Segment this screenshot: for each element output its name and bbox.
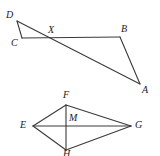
segment-BA — [120, 37, 140, 84]
segment-HE — [33, 126, 66, 150]
segment-EF — [33, 105, 66, 126]
vertex-label-b: B — [121, 24, 127, 34]
vertex-label-c: C — [11, 38, 18, 48]
segment-CB — [22, 37, 120, 38]
vertex-label-h: H — [63, 149, 70, 156]
geometry-figure-page: DCXBAFEMGH — [0, 0, 160, 156]
vertex-label-m: M — [69, 113, 77, 123]
vertex-label-a: A — [142, 85, 148, 95]
segment-GH — [66, 126, 131, 150]
vertex-label-x: X — [48, 25, 54, 35]
kite-efgh-with-center-m — [33, 105, 131, 150]
vertex-label-g: G — [135, 120, 142, 130]
vertex-label-e: E — [20, 120, 26, 130]
segments-layer — [17, 21, 140, 150]
vertex-label-f: F — [63, 90, 69, 100]
vertex-label-d: D — [6, 10, 13, 20]
geometry-canvas — [0, 0, 160, 156]
